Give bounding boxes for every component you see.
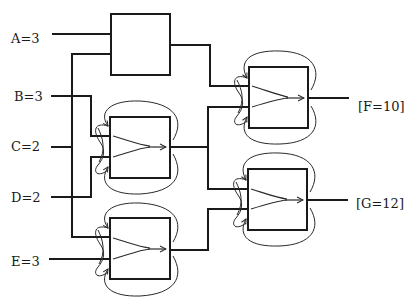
box-mid (96, 101, 178, 194)
box-right-top (235, 51, 316, 144)
box-bottom (96, 203, 178, 296)
input-label-e: E=3 (11, 254, 40, 269)
output-label-g: [G=12] (356, 196, 404, 211)
input-label-a: A=3 (10, 31, 40, 46)
input-label-d: D=2 (11, 190, 41, 205)
box-top (111, 14, 170, 75)
input-label-c: C=2 (11, 139, 40, 154)
input-label-b: B=3 (14, 89, 43, 104)
output-label-f: [F=10] (358, 99, 405, 114)
circuit-diagram: A=3 B=3 C=2 D=2 E=3 [F=10] [G=12] (0, 0, 405, 308)
box-right-bottom (234, 153, 315, 246)
